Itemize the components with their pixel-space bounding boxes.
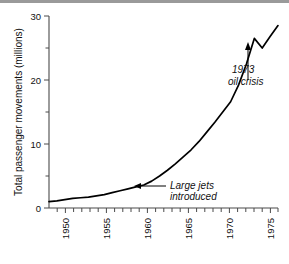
- y-tick-label-0: 0: [36, 203, 41, 214]
- y-axis-title: Total passenger movements (millions): [13, 28, 24, 196]
- x-tick-label-1960: 1960: [142, 218, 153, 239]
- x-tick-label-1955: 1955: [101, 218, 112, 239]
- data-series-line: [49, 26, 278, 202]
- oil-crisis-arrow-head: [245, 42, 251, 50]
- large-jets-arrow-head: [134, 183, 141, 189]
- large-jets-label-line2: introduced: [170, 191, 217, 202]
- x-tick-label-1950: 1950: [60, 218, 71, 239]
- oil-crisis-label-line2: oil crisis: [228, 76, 264, 87]
- y-tick-label-20: 20: [30, 75, 41, 86]
- chart-figure: 30 20 10 0 Total passenger movements (mi…: [0, 0, 289, 264]
- x-tick-label-1970: 1970: [224, 218, 235, 239]
- annotation-oil-crisis: 1973 oil crisis: [228, 42, 264, 87]
- large-jets-label-line1: Large jets: [170, 180, 214, 191]
- line-chart-svg: 30 20 10 0 Total passenger movements (mi…: [0, 0, 289, 264]
- y-tick-label-10: 10: [30, 139, 41, 150]
- y-tick-label-30: 30: [30, 11, 41, 22]
- x-tick-label-1975: 1975: [265, 218, 276, 239]
- oil-crisis-label-line1: 1973: [232, 64, 255, 75]
- x-tick-label-1965: 1965: [183, 218, 194, 239]
- x-axis-minor-ticks: [57, 208, 278, 213]
